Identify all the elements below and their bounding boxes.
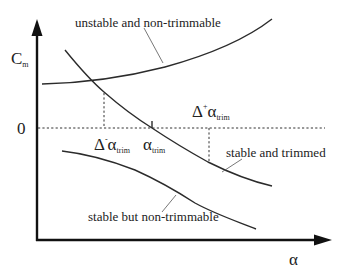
y-axis-label: Cm xyxy=(11,49,29,69)
unstable-label: unstable and non-trimmable xyxy=(75,15,221,30)
unstable-leader-line xyxy=(144,28,163,63)
delta-minus-alpha-trim-label: Δ-αtrim xyxy=(94,135,131,155)
x-axis-label: α xyxy=(289,250,298,269)
x-axis-arrow-icon xyxy=(314,235,332,246)
delta-plus-alpha-trim-label: Δ+αtrim xyxy=(192,102,230,122)
stable-trimmed-label: stable and trimmed xyxy=(226,145,326,160)
stable-trimmed-leader-line xyxy=(222,159,242,172)
zero-label: 0 xyxy=(17,119,26,138)
y-axis-arrow-icon xyxy=(32,19,43,36)
alpha-trim-label: αtrim xyxy=(143,135,166,155)
stable-trimmed-curve xyxy=(65,50,272,186)
stable-nontrimmable-label: stable but non-trimmable xyxy=(88,209,219,224)
cm-alpha-diagram: Cm 0 α unstable and non-trimmable stable… xyxy=(0,0,344,275)
